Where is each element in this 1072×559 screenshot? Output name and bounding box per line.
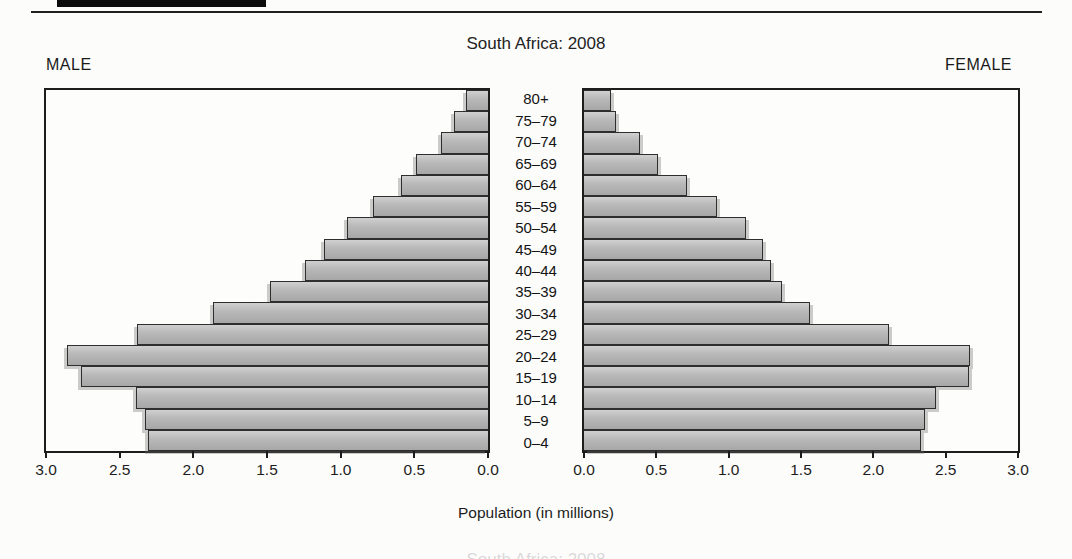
pyramid-row-female: [584, 345, 1018, 366]
pyramid-row-female: [584, 90, 1018, 111]
age-group-label: 55–59: [492, 195, 580, 216]
age-group-label: 15–19: [492, 367, 580, 388]
bar-female-30–34: [584, 302, 810, 323]
page-header-rule: [31, 11, 1042, 13]
male-axis-tick: [192, 451, 194, 458]
pyramid-row-female: [584, 175, 1018, 196]
male-axis-tick-label: 1.0: [330, 461, 352, 479]
pyramid-row-female: [584, 366, 1018, 387]
bar-female-50–54: [584, 217, 746, 238]
age-group-label: 65–69: [492, 152, 580, 173]
female-panel: 0.00.51.01.52.02.53.0: [582, 88, 1020, 453]
bar-female-25–29: [584, 324, 889, 345]
female-axis-tick: [800, 451, 802, 458]
pyramid-row-male: [46, 345, 488, 366]
bar-female-15–19: [584, 366, 969, 387]
male-axis-tick: [119, 451, 121, 458]
female-axis-tick-label: 1.5: [790, 461, 812, 479]
male-axis-tick: [266, 451, 268, 458]
female-axis-tick: [583, 451, 585, 458]
male-panel: 3.02.52.01.51.00.50.0: [44, 88, 490, 453]
age-group-label: 45–49: [492, 238, 580, 259]
female-axis-tick-label: 2.0: [863, 461, 885, 479]
female-axis-label: FEMALE: [945, 56, 1012, 74]
pyramid-row-female: [584, 132, 1018, 153]
pyramid-row-male: [46, 430, 488, 451]
x-axis-title: Population (in millions): [0, 504, 1072, 522]
age-group-label: 30–34: [492, 303, 580, 324]
pyramid-row-male: [46, 111, 488, 132]
female-axis-tick: [1017, 451, 1019, 458]
bar-female-20–24: [584, 345, 970, 366]
pyramid-row-female: [584, 260, 1018, 281]
bar-male-50–54: [347, 217, 488, 238]
female-axis-tick-label: 0.5: [646, 461, 668, 479]
pyramid-row-male: [46, 196, 488, 217]
bar-male-45–49: [324, 239, 488, 260]
female-axis-tick-label: 3.0: [1007, 461, 1029, 479]
bar-female-75–79: [584, 111, 616, 132]
bar-female-80+: [584, 90, 611, 111]
pyramid-row-male: [46, 409, 488, 430]
pyramid-row-male: [46, 302, 488, 323]
bar-male-10–14: [136, 387, 488, 408]
bar-male-75–79: [454, 111, 488, 132]
bar-male-40–44: [305, 260, 488, 281]
faint-page-caption: South Africa: 2008: [0, 550, 1072, 559]
chart-title: South Africa: 2008: [0, 34, 1072, 54]
bar-female-65–69: [584, 154, 658, 175]
age-group-label: 60–64: [492, 174, 580, 195]
bar-male-80+: [466, 90, 488, 111]
pyramid-row-female: [584, 430, 1018, 451]
age-group-label: 20–24: [492, 346, 580, 367]
pyramid-row-male: [46, 154, 488, 175]
age-group-label: 5–9: [492, 410, 580, 431]
scanned-chart-page: South Africa: 2008 MALE FEMALE 3.02.52.0…: [0, 0, 1072, 559]
bar-female-40–44: [584, 260, 771, 281]
bar-male-35–39: [270, 281, 488, 302]
male-axis-tick: [487, 451, 489, 458]
female-axis-tick: [655, 451, 657, 458]
population-pyramid: 3.02.52.01.51.00.50.0 80+75–7970–7465–69…: [44, 88, 1020, 453]
pyramid-row-female: [584, 302, 1018, 323]
age-group-label: 70–74: [492, 131, 580, 152]
age-group-label: 10–14: [492, 389, 580, 410]
bar-male-60–64: [401, 175, 488, 196]
bar-female-45–49: [584, 239, 763, 260]
male-axis-label: MALE: [46, 56, 92, 74]
age-group-label: 75–79: [492, 109, 580, 130]
bar-female-55–59: [584, 196, 717, 217]
age-group-labels-column: 80+75–7970–7465–6960–6455–5950–5445–4940…: [490, 88, 582, 453]
bar-male-5–9: [145, 409, 488, 430]
pyramid-row-male: [46, 387, 488, 408]
pyramid-row-male: [46, 281, 488, 302]
female-axis-tick-label: 2.5: [935, 461, 957, 479]
pyramid-row-male: [46, 90, 488, 111]
pyramid-row-male: [46, 175, 488, 196]
bar-female-35–39: [584, 281, 782, 302]
pyramid-row-female: [584, 196, 1018, 217]
pyramid-row-female: [584, 324, 1018, 345]
bar-female-5–9: [584, 409, 925, 430]
female-axis-tick: [728, 451, 730, 458]
bar-female-70–74: [584, 132, 640, 153]
bar-male-25–29: [137, 324, 488, 345]
female-bars-container: [584, 90, 1018, 451]
age-group-label: 50–54: [492, 217, 580, 238]
age-group-label: 35–39: [492, 281, 580, 302]
bar-male-15–19: [81, 366, 488, 387]
male-axis-tick-label: 0.0: [477, 461, 499, 479]
bar-female-10–14: [584, 387, 936, 408]
bar-male-65–69: [416, 154, 488, 175]
pyramid-row-male: [46, 239, 488, 260]
male-axis-tick-label: 3.0: [35, 461, 57, 479]
bar-male-55–59: [373, 196, 488, 217]
age-group-label: 80+: [492, 88, 580, 109]
female-axis-tick: [945, 451, 947, 458]
page-header-redaction-bar: [57, 0, 266, 7]
bar-female-0–4: [584, 430, 921, 451]
female-axis-tick-label: 1.0: [718, 461, 740, 479]
bar-female-60–64: [584, 175, 687, 196]
age-group-label: 25–29: [492, 324, 580, 345]
male-axis-tick: [340, 451, 342, 458]
